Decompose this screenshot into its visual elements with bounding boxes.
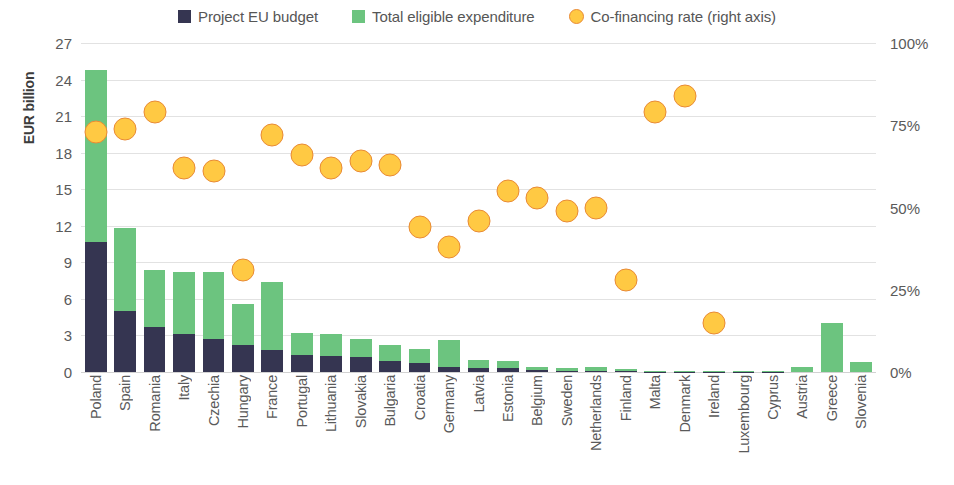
bar-group[interactable] bbox=[762, 43, 784, 372]
co-financing-rate-dot[interactable] bbox=[438, 235, 461, 258]
legend-swatch-project-eu-budget bbox=[178, 10, 191, 23]
bar-group[interactable] bbox=[291, 43, 313, 372]
bar-group[interactable] bbox=[203, 43, 225, 372]
x-axis-label-slovenia: Slovenia bbox=[853, 375, 869, 429]
bar-group[interactable] bbox=[350, 43, 372, 372]
x-axis-label-latvia: Latvia bbox=[471, 375, 487, 413]
co-financing-rate-dot[interactable] bbox=[349, 150, 372, 173]
x-axis-label-sweden: Sweden bbox=[559, 375, 575, 426]
bar-group[interactable] bbox=[85, 43, 107, 372]
co-financing-rate-dot[interactable] bbox=[526, 186, 549, 209]
bar-group[interactable] bbox=[644, 43, 666, 372]
bar-group[interactable] bbox=[438, 43, 460, 372]
bar-group[interactable] bbox=[320, 43, 342, 372]
bar-segment-project-eu-budget[interactable] bbox=[615, 371, 637, 372]
x-axis-label-poland: Poland bbox=[88, 375, 104, 419]
bar-segment-project-eu-budget[interactable] bbox=[261, 350, 283, 372]
co-financing-rate-dot[interactable] bbox=[673, 84, 696, 107]
y-axis-tick-right: 25% bbox=[890, 281, 948, 298]
bar-group[interactable] bbox=[733, 43, 755, 372]
bar-segment-project-eu-budget[interactable] bbox=[585, 371, 607, 372]
co-financing-rate-dot[interactable] bbox=[173, 157, 196, 180]
co-financing-rate-dot[interactable] bbox=[143, 101, 166, 124]
bar-segment-project-eu-budget[interactable] bbox=[203, 339, 225, 372]
co-financing-rate-dot[interactable] bbox=[467, 209, 490, 232]
bar-group[interactable] bbox=[850, 43, 872, 372]
bar-segment-project-eu-budget[interactable] bbox=[85, 242, 107, 372]
y-axis-tick-left: 18 bbox=[38, 144, 72, 161]
bar-segment-project-eu-budget[interactable] bbox=[291, 355, 313, 372]
x-axis-label-greece: Greece bbox=[824, 375, 840, 421]
y-axis-tick-left: 3 bbox=[38, 327, 72, 344]
y-axis-tick-left: 6 bbox=[38, 290, 72, 307]
co-financing-rate-dot[interactable] bbox=[84, 120, 107, 143]
bar-segment-project-eu-budget[interactable] bbox=[350, 357, 372, 372]
bar-segment-project-eu-budget[interactable] bbox=[114, 311, 136, 372]
legend-label-total-eligible-expenditure: Total eligible expenditure bbox=[372, 8, 535, 25]
x-axis-label-spain: Spain bbox=[117, 375, 133, 411]
co-financing-rate-dot[interactable] bbox=[202, 160, 225, 183]
bar-segment-total-eligible-expenditure[interactable] bbox=[850, 362, 872, 372]
y-axis-tick-left: 24 bbox=[38, 71, 72, 88]
co-financing-rate-dot[interactable] bbox=[585, 196, 608, 219]
x-axis-label-portugal: Portugal bbox=[294, 375, 310, 427]
co-financing-rate-dot[interactable] bbox=[261, 124, 284, 147]
bar-segment-total-eligible-expenditure[interactable] bbox=[821, 323, 843, 372]
co-financing-rate-dot[interactable] bbox=[614, 268, 637, 291]
bar-group[interactable] bbox=[173, 43, 195, 372]
x-axis-label-cyprus: Cyprus bbox=[765, 375, 781, 420]
bar-group[interactable] bbox=[821, 43, 843, 372]
y-axis-tick-left: 27 bbox=[38, 35, 72, 52]
legend-label-co-financing-rate: Co-financing rate (right axis) bbox=[591, 8, 776, 25]
co-financing-rate-dot[interactable] bbox=[703, 311, 726, 334]
co-financing-rate-dot[interactable] bbox=[231, 259, 254, 282]
x-axis-label-croatia: Croatia bbox=[412, 375, 428, 420]
legend-item-co-financing-rate: Co-financing rate (right axis) bbox=[569, 8, 776, 25]
bar-segment-project-eu-budget[interactable] bbox=[497, 368, 519, 372]
bar-group[interactable] bbox=[497, 43, 519, 372]
legend-swatch-co-financing-rate bbox=[569, 9, 584, 24]
bar-segment-project-eu-budget[interactable] bbox=[468, 368, 490, 372]
bar-segment-project-eu-budget[interactable] bbox=[556, 371, 578, 372]
bar-segment-project-eu-budget[interactable] bbox=[409, 363, 431, 372]
x-axis-label-netherlands: Netherlands bbox=[588, 375, 604, 451]
bar-segment-project-eu-budget[interactable] bbox=[438, 367, 460, 372]
bar-group[interactable] bbox=[232, 43, 254, 372]
x-axis-label-italy: Italy bbox=[176, 375, 192, 401]
co-financing-rate-dot[interactable] bbox=[496, 180, 519, 203]
x-axis-labels: PolandSpainRomaniaItalyCzechiaHungaryFra… bbox=[81, 375, 876, 485]
plot-area bbox=[81, 43, 876, 372]
y-axis-tick-right: 50% bbox=[890, 199, 948, 216]
legend-label-project-eu-budget: Project EU budget bbox=[198, 8, 318, 25]
bar-segment-project-eu-budget[interactable] bbox=[144, 327, 166, 372]
y-axis-tick-left: 0 bbox=[38, 364, 72, 381]
gridline bbox=[81, 372, 876, 373]
legend-swatch-total-eligible-expenditure bbox=[352, 10, 365, 23]
bar-group[interactable] bbox=[144, 43, 166, 372]
y-axis-tick-left: 12 bbox=[38, 217, 72, 234]
y-axis-tick-left: 9 bbox=[38, 254, 72, 271]
bar-segment-total-eligible-expenditure[interactable] bbox=[791, 367, 813, 372]
co-financing-rate-dot[interactable] bbox=[320, 157, 343, 180]
co-financing-rate-dot[interactable] bbox=[290, 143, 313, 166]
co-financing-rate-dot[interactable] bbox=[644, 101, 667, 124]
bar-segment-project-eu-budget[interactable] bbox=[526, 370, 548, 372]
bar-segment-project-eu-budget[interactable] bbox=[232, 345, 254, 372]
co-financing-rate-dot[interactable] bbox=[555, 199, 578, 222]
x-axis-label-estonia: Estonia bbox=[500, 375, 516, 422]
bar-group[interactable] bbox=[114, 43, 136, 372]
bar-group[interactable] bbox=[379, 43, 401, 372]
bar-group[interactable] bbox=[468, 43, 490, 372]
bar-group[interactable] bbox=[409, 43, 431, 372]
co-financing-rate-dot[interactable] bbox=[379, 153, 402, 176]
bar-segment-project-eu-budget[interactable] bbox=[379, 361, 401, 372]
co-financing-rate-dot[interactable] bbox=[408, 216, 431, 239]
co-financing-chart: Project EU budget Total eligible expendi… bbox=[0, 0, 954, 485]
bar-segment-project-eu-budget[interactable] bbox=[320, 356, 342, 372]
bar-segment-project-eu-budget[interactable] bbox=[173, 334, 195, 372]
bar-group[interactable] bbox=[791, 43, 813, 372]
bar-group[interactable] bbox=[615, 43, 637, 372]
bar-group[interactable] bbox=[261, 43, 283, 372]
co-financing-rate-dot[interactable] bbox=[114, 117, 137, 140]
x-axis-label-luxembourg: Luxembourg bbox=[736, 375, 752, 454]
